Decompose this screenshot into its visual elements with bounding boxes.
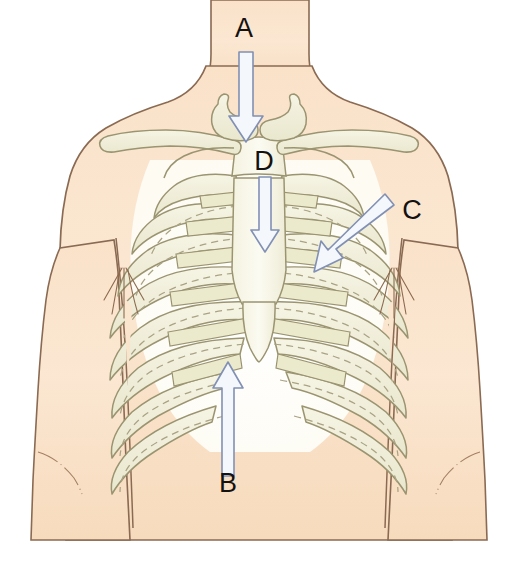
label-a: A [235,13,253,43]
label-d: D [254,146,274,176]
label-c: C [402,195,422,225]
label-b: B [219,468,237,498]
chest-anatomy-figure: A D C B [0,0,518,575]
right-arm [388,240,487,540]
left-arm [31,240,130,540]
anatomy-illustration: A D C B [0,0,518,575]
